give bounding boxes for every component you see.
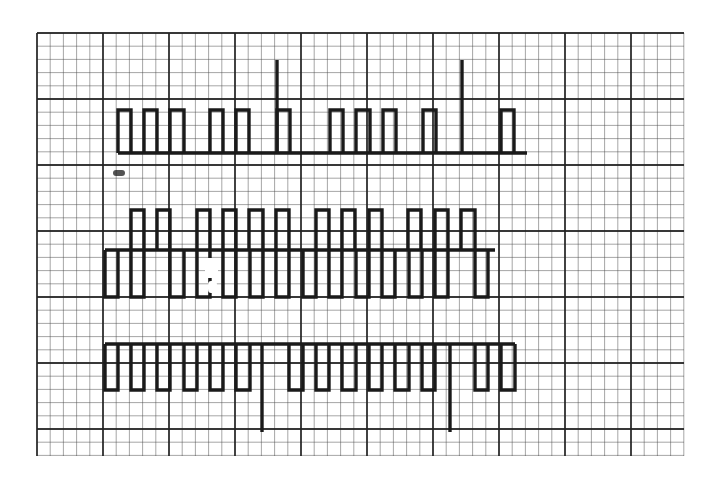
ink-smudge-left (113, 170, 125, 176)
white-correction-blob-2 (208, 281, 217, 293)
screenshot-root: Graph Paper Oscillogram Three-channel sq… (0, 0, 718, 480)
paper-background (0, 0, 718, 480)
graph-paper-canvas (0, 0, 718, 480)
white-correction-blob (205, 258, 218, 278)
